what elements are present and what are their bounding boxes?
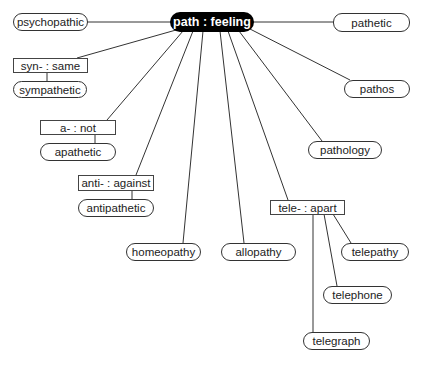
connector-lines <box>0 0 421 366</box>
prefix-node-anti: anti- : against <box>78 175 154 191</box>
word-node-apathetic: apathetic <box>40 143 116 161</box>
word-node-pathos: pathos <box>344 80 410 98</box>
word-node-sympathetic: sympathetic <box>13 81 87 98</box>
prefix-node-syn: syn- : same <box>13 58 88 73</box>
prefix-node-a: a- : not <box>40 120 116 135</box>
word-node-telepathy: telepathy <box>341 243 409 261</box>
word-node-pathetic: pathetic <box>333 13 410 32</box>
word-node-antipathetic: antipathetic <box>78 199 154 217</box>
word-node-homeopathy: homeopathy <box>126 243 201 261</box>
word-node-allopathy: allopathy <box>221 243 296 261</box>
word-node-pathology: pathology <box>308 141 382 159</box>
prefix-node-tele: tele- : apart <box>270 200 345 215</box>
word-node-telephone: telephone <box>323 286 392 304</box>
root-node-path-feeling: path : feeling <box>170 12 254 32</box>
word-node-psychopathic: psychopathic <box>13 13 88 31</box>
word-node-telegraph: telegraph <box>303 332 370 350</box>
